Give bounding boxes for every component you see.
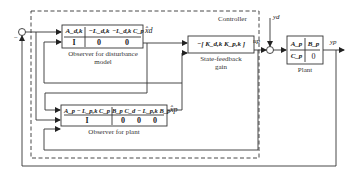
cell-b-p: B_p: [305, 40, 322, 48]
cell-ap-minus-lpk-cp: A_p − L_p,k C_p: [62, 107, 112, 114]
xd-hat-label: x̂d: [145, 26, 153, 35]
cell-zero: 0: [132, 116, 146, 125]
minus-sign: −: [14, 34, 18, 42]
cell-neg-l-d-k: −L_d,k: [86, 27, 112, 35]
disturbance-observer-caption-2: model: [60, 58, 146, 66]
cell-zero: 0: [114, 38, 140, 47]
controller-label: Controller: [218, 15, 247, 23]
cell-zero: 0: [305, 52, 322, 61]
xp-hat-label: x̂p: [170, 105, 178, 114]
cell-bp-cd-minus-lpk-bp: B_p C_d − L_p,k B_p: [112, 107, 167, 114]
cell-zero: 0: [116, 116, 130, 125]
cell-a-d-k: A_d,k: [64, 27, 84, 35]
block-diagram-canvas: [0, 0, 361, 176]
state-feedback-caption: State-feedback: [186, 55, 256, 63]
cell-identity: I: [62, 116, 112, 125]
disturbance-observer-caption: Observer for disturbance: [60, 50, 146, 58]
sum-junction-right: [267, 47, 274, 54]
cell-c-p: C_p: [288, 52, 305, 60]
cell-neg-l-d-k-c-p: −L_d,k C_p: [112, 27, 143, 34]
cell-zero: 0: [148, 116, 162, 125]
state-feedback-gain-matrix: −[ K_d,k K_p,k ]: [188, 40, 254, 48]
state-feedback-caption-2: gain: [186, 63, 256, 71]
cell-a-p: A_p: [288, 40, 305, 48]
cell-identity: I: [64, 38, 84, 47]
yd-label: yd: [273, 13, 280, 21]
cell-zero: 0: [88, 38, 110, 47]
plant-observer-caption: Observer for plant: [60, 128, 168, 136]
sum-junction-left: [19, 29, 26, 36]
up-label: up: [253, 37, 260, 45]
yp-label: yp: [330, 38, 337, 46]
plant-caption: Plant: [285, 66, 325, 74]
